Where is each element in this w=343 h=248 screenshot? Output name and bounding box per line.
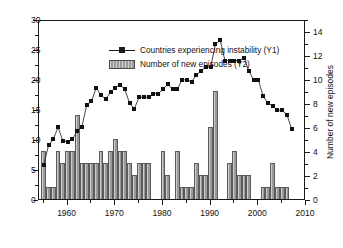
line-marker-icon — [109, 46, 135, 54]
axis-tick — [305, 32, 310, 33]
axis-tick — [114, 200, 115, 205]
x-tick-label: 2000 — [248, 208, 267, 218]
legend-item-bar: Number of new episodes (Y2) — [109, 57, 279, 71]
data-point-marker — [271, 104, 275, 108]
axis-tick — [233, 200, 234, 203]
data-point-marker — [70, 137, 74, 141]
axis-tick — [281, 200, 282, 203]
data-point-marker — [51, 137, 55, 141]
axis-tick — [35, 95, 38, 96]
axis-tick — [305, 128, 310, 129]
axis-tick — [305, 20, 308, 21]
legend-item-line: Countries experiencing instability (Y1) — [109, 43, 279, 57]
axis-tick — [35, 125, 38, 126]
data-point-marker — [66, 140, 70, 144]
axis-tick — [90, 200, 91, 203]
plot-area: Countries experiencing instability (Y1) … — [38, 20, 305, 200]
data-point-marker — [266, 101, 270, 105]
legend-label-0: Countries experiencing instability (Y1) — [140, 45, 279, 55]
data-point-marker — [290, 127, 294, 131]
axis-tick — [35, 35, 38, 36]
axis-tick — [305, 188, 308, 189]
data-point-marker — [194, 73, 198, 77]
data-point-marker — [132, 107, 136, 111]
y2-tick-label: 4 — [313, 147, 318, 157]
axis-tick — [138, 200, 139, 203]
data-point-marker — [156, 92, 160, 96]
data-point-marker — [175, 87, 179, 91]
data-point-marker — [42, 163, 46, 167]
data-point-marker — [85, 103, 89, 107]
axis-tick — [305, 164, 308, 165]
axis-tick — [305, 200, 306, 205]
axis-tick — [210, 200, 211, 205]
y2-tick-label: 0 — [313, 195, 318, 205]
data-point-marker — [128, 101, 132, 105]
data-point-marker — [261, 94, 265, 98]
data-point-marker — [99, 93, 103, 97]
axis-tick — [305, 140, 308, 141]
axis-tick — [305, 68, 308, 69]
data-point-marker — [166, 82, 170, 86]
axis-tick — [305, 176, 310, 177]
y2-axis-label: Number of new episodes — [325, 65, 335, 159]
axis-tick — [67, 200, 68, 205]
data-point-marker — [113, 86, 117, 90]
data-point-marker — [218, 38, 222, 42]
data-point-marker — [80, 125, 84, 129]
axis-tick — [35, 155, 38, 156]
y2-tick-label: 8 — [313, 99, 318, 109]
data-point-marker — [118, 83, 122, 87]
legend-label-1: Number of new episodes (Y2) — [140, 59, 250, 69]
axis-tick — [305, 152, 310, 153]
axis-tick — [186, 200, 187, 203]
data-point-marker — [104, 97, 108, 101]
x-tick-label: 1990 — [200, 208, 219, 218]
axis-tick — [305, 116, 308, 117]
axis-tick — [305, 44, 308, 45]
data-point-marker — [285, 113, 289, 117]
axis-tick — [305, 104, 310, 105]
bar-swatch-icon — [109, 60, 135, 69]
data-point-marker — [190, 80, 194, 84]
axis-tick — [35, 65, 38, 66]
data-point-marker — [123, 87, 127, 91]
x-tick-label: 1980 — [152, 208, 171, 218]
data-point-marker — [61, 139, 65, 143]
data-point-marker — [171, 87, 175, 91]
data-point-marker — [151, 92, 155, 96]
data-point-marker — [275, 108, 279, 112]
data-point-marker — [56, 125, 60, 129]
data-point-marker — [137, 95, 141, 99]
chart-figure: Percent of countries experiencing instab… — [0, 0, 343, 248]
data-point-marker — [161, 87, 165, 91]
y2-tick-label: 10 — [313, 75, 322, 85]
axis-tick — [35, 185, 38, 186]
axis-tick — [305, 92, 308, 93]
data-point-marker — [280, 108, 284, 112]
data-point-marker — [142, 95, 146, 99]
axis-tick — [305, 80, 310, 81]
data-point-marker — [252, 78, 256, 82]
axis-tick — [305, 56, 310, 57]
x-tick-label: 2010 — [296, 208, 315, 218]
data-point-marker — [256, 78, 260, 82]
data-point-marker — [47, 143, 51, 147]
data-point-marker — [89, 99, 93, 103]
data-point-marker — [75, 129, 79, 133]
data-point-marker — [185, 78, 189, 82]
data-point-marker — [180, 78, 184, 82]
y2-tick-label: 2 — [313, 171, 318, 181]
y2-tick-label: 14 — [313, 27, 322, 37]
x-tick-label: 1970 — [105, 208, 124, 218]
axis-tick — [257, 200, 258, 205]
y2-tick-label: 12 — [313, 51, 322, 61]
axis-tick — [162, 200, 163, 205]
axis-tick — [43, 200, 44, 203]
data-point-marker — [109, 90, 113, 94]
x-tick-label: 1960 — [57, 208, 76, 218]
data-point-marker — [94, 86, 98, 90]
y2-tick-label: 6 — [313, 123, 318, 133]
data-point-marker — [147, 95, 151, 99]
legend: Countries experiencing instability (Y1) … — [109, 43, 279, 71]
